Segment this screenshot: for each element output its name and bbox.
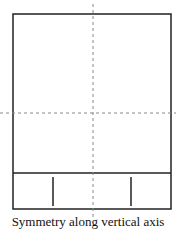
outer-rectangle bbox=[13, 14, 171, 209]
diagram-caption: Symmetry along vertical axis bbox=[0, 214, 176, 230]
diagram-svg bbox=[0, 0, 176, 231]
symmetry-diagram: Symmetry along vertical axis bbox=[0, 0, 176, 231]
